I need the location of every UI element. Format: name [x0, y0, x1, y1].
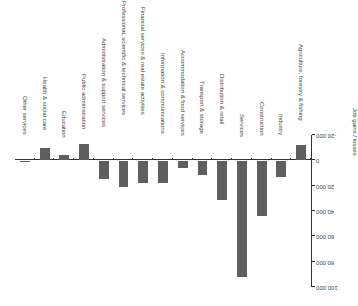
bar-agriculture-forestry-fishing: [296, 145, 306, 160]
y-tick: [312, 185, 315, 186]
x-tick: [73, 159, 74, 161]
bar-professional-scientific-technical-services: [119, 161, 129, 188]
category-label: Public administration: [81, 74, 87, 129]
x-tick: [53, 159, 54, 161]
y-axis-title: Job gains / losses: [352, 109, 358, 157]
category-label: Services: [239, 114, 245, 137]
bar-accommodation-food-services: [178, 161, 188, 169]
x-tick: [251, 159, 252, 161]
category-label: Transport & storage: [199, 81, 205, 134]
x-tick: [34, 159, 35, 161]
category-label: Other services: [22, 96, 28, 135]
bar-education: [59, 155, 69, 161]
y-tick: [312, 235, 315, 236]
bar-transport-storage: [198, 161, 208, 176]
category-label: Accommodation & food services: [180, 50, 186, 136]
category-label: Financial services & real estate activit…: [140, 7, 146, 115]
y-tick: [312, 160, 315, 161]
category-label: Industry: [278, 114, 284, 135]
y-tick-label: 20,000: [316, 184, 350, 190]
y-tick: [312, 134, 315, 135]
y-tick-label: 40,000: [316, 209, 350, 215]
bar-administration-support-services: [99, 161, 109, 180]
bar-public-administration: [79, 144, 89, 160]
x-tick: [113, 159, 114, 161]
x-tick: [192, 159, 193, 161]
bar-other-services: [20, 161, 30, 163]
y-tick: [312, 210, 315, 211]
x-tick: [172, 159, 173, 161]
y-tick-label: -20,000: [316, 133, 350, 139]
bar-services: [237, 161, 247, 277]
y-tick: [312, 261, 315, 262]
y-tick-label: 80,000: [316, 260, 350, 266]
category-label: Construction: [259, 102, 265, 136]
y-tick-label: 60,000: [316, 234, 350, 240]
category-label: Education: [61, 111, 67, 138]
y-tick-label: 100,000: [316, 285, 350, 291]
category-label: Professional, scientific & technical ser…: [121, 1, 127, 115]
x-tick: [152, 159, 153, 161]
bar-information-communications: [158, 161, 168, 184]
x-tick: [290, 159, 291, 161]
x-tick: [211, 159, 212, 161]
x-tick: [271, 159, 272, 161]
bar-construction: [257, 161, 267, 217]
category-label: Administration & support services: [101, 38, 107, 127]
x-tick: [310, 159, 311, 161]
x-tick: [93, 159, 94, 161]
category-label: Agriculture, forestry & fishing: [298, 44, 304, 121]
bar-health-social-care: [40, 148, 50, 161]
category-label: Health & social care: [42, 78, 48, 131]
x-tick: [132, 159, 133, 161]
bar-financial-services-real-estate-activities: [138, 161, 148, 184]
category-label: Distribution & retail: [219, 74, 225, 124]
bar-industry: [276, 161, 286, 177]
bar-distribution-retail: [217, 161, 227, 200]
category-label: Information & communications: [160, 53, 166, 134]
y-tick-label: 0: [316, 159, 350, 165]
y-tick: [312, 286, 315, 287]
x-tick: [231, 159, 232, 161]
